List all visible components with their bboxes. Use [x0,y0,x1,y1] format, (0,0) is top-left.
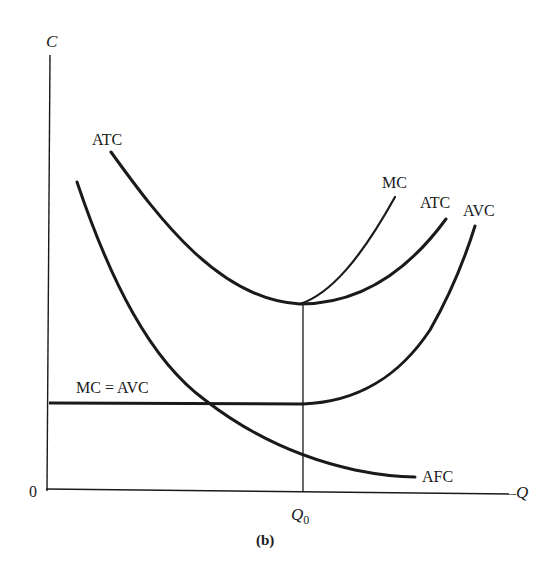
mc-avc-flat-line [49,403,303,404]
avc-curve [303,226,475,404]
panel-label: (b) [256,532,274,549]
y-axis-label: C [46,32,58,51]
y-axis [47,55,50,491]
avc-label: AVC [463,202,495,219]
mc-curve [300,197,395,304]
x-axis [46,489,516,494]
mc-label: MC [382,174,407,191]
afc-curve [77,182,415,477]
origin-label: 0 [29,483,37,500]
mc-avc-label: MC = AVC [76,379,149,396]
afc-label: AFC [422,468,453,485]
atc-label-left: ATC [92,131,122,148]
q0-label: Q0 [291,505,309,527]
atc-label-right: ATC [420,194,450,211]
cost-curves-diagram: C 0 Q Q0 ATC MC ATC AVC MC = AVC AFC (b) [0,0,542,575]
x-axis-label: Q [516,483,528,502]
